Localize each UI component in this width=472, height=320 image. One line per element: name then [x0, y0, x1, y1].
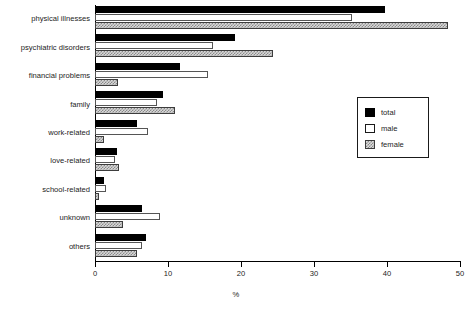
bar-female	[95, 136, 104, 143]
bar-group	[95, 205, 460, 229]
bar-row	[95, 250, 460, 257]
y-axis-label: work-related	[2, 128, 90, 137]
bar-row	[95, 193, 460, 200]
bar-female	[95, 79, 118, 86]
bar-female	[95, 193, 99, 200]
bar-female	[95, 250, 137, 257]
bar-total	[95, 177, 104, 184]
bar-male	[95, 128, 148, 135]
x-axis-tick	[460, 262, 461, 267]
bar-row	[95, 185, 460, 192]
bar-row	[95, 71, 460, 78]
bar-row	[95, 14, 460, 21]
bar-total	[95, 63, 180, 70]
y-axis-label: family	[2, 100, 90, 109]
bar-row	[95, 164, 460, 171]
white-open-swatch-icon	[365, 124, 375, 133]
bar-group	[95, 234, 460, 258]
bar-group	[95, 177, 460, 201]
bar-row	[95, 177, 460, 184]
bar-group	[95, 34, 460, 58]
y-axis-label: financial problems	[2, 71, 90, 80]
bar-total	[95, 205, 142, 212]
bar-row	[95, 34, 460, 41]
legend-item-male: male	[365, 120, 422, 136]
x-axis-tick	[95, 262, 96, 267]
bar-row	[95, 242, 460, 249]
bar-group	[95, 63, 460, 87]
bar-total	[95, 91, 163, 98]
x-axis-tick-label: 10	[155, 269, 181, 278]
x-axis-tick-label: 50	[447, 269, 472, 278]
bar-row	[95, 63, 460, 70]
bar-group	[95, 6, 460, 30]
bar-row	[95, 221, 460, 228]
x-axis-tick	[314, 262, 315, 267]
bar-female	[95, 50, 273, 57]
bar-female	[95, 221, 123, 228]
bar-total	[95, 120, 137, 127]
x-axis-line	[95, 261, 461, 262]
legend-label-total: total	[381, 108, 395, 117]
bar-row	[95, 22, 460, 29]
bar-row	[95, 213, 460, 220]
bar-total	[95, 234, 146, 241]
bar-row	[95, 205, 460, 212]
bar-row	[95, 42, 460, 49]
bar-row	[95, 50, 460, 57]
bar-total	[95, 34, 235, 41]
bar-male	[95, 185, 106, 192]
y-axis-label: love-related	[2, 156, 90, 165]
bar-male	[95, 156, 115, 163]
y-axis-category-labels: physical illnessespsychiatric disordersf…	[0, 5, 90, 261]
black-filled-swatch-icon	[365, 108, 375, 117]
bar-female	[95, 107, 175, 114]
bar-total	[95, 6, 385, 13]
bar-row	[95, 234, 460, 241]
y-axis-label: psychiatric disorders	[2, 43, 90, 52]
x-axis-tick-label: 40	[374, 269, 400, 278]
y-axis-label: physical illnesses	[2, 14, 90, 23]
bar-row	[95, 6, 460, 13]
chart-legend: total male female	[357, 97, 429, 158]
x-axis-tick	[241, 262, 242, 267]
legend-item-total: total	[365, 104, 422, 120]
bar-row	[95, 79, 460, 86]
x-axis-title: %	[0, 290, 472, 299]
y-axis-label: unknown	[2, 213, 90, 222]
y-axis-label: others	[2, 242, 90, 251]
legend-item-female: female	[365, 136, 422, 152]
bar-female	[95, 22, 448, 29]
grouped-bar-chart: physical illnessespsychiatric disordersf…	[0, 0, 472, 320]
bar-male	[95, 242, 142, 249]
legend-label-male: male	[381, 124, 397, 133]
x-axis-tick-label: 30	[301, 269, 327, 278]
x-axis-tick-label: 0	[82, 269, 108, 278]
bar-male	[95, 14, 352, 21]
bar-male	[95, 42, 213, 49]
hatched-gray-swatch-icon	[365, 140, 375, 149]
y-axis-label: school-related	[2, 185, 90, 194]
bar-total	[95, 148, 117, 155]
x-axis-tick-label: 20	[228, 269, 254, 278]
x-axis-tick	[387, 262, 388, 267]
bar-male	[95, 213, 160, 220]
x-axis-tick	[168, 262, 169, 267]
legend-label-female: female	[381, 140, 404, 149]
bar-male	[95, 99, 157, 106]
bar-female	[95, 164, 119, 171]
bar-male	[95, 71, 208, 78]
